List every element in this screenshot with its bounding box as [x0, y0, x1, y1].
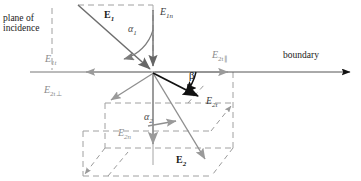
vector-diagram-figure: plane of incidence boundary E1 E1n E1t α…: [0, 0, 361, 181]
label-alpha1-subscript: 1: [133, 29, 137, 37]
label-alpha2: α2: [144, 112, 153, 125]
label-E1n: E1n: [160, 7, 173, 20]
label-E1n-subscript: 1n: [166, 12, 173, 20]
plane-of-incidence-line1: plane of: [3, 13, 34, 23]
label-E2t-parallel-subscript: 2t∥: [218, 55, 227, 63]
label-E2t-perpendicular: E2t⊥: [44, 85, 62, 98]
label-E1t-subscript: 1t: [51, 59, 56, 67]
label-alpha1: α1: [128, 24, 137, 37]
dash-depth-edge-right: [213, 148, 233, 174]
dash-depth-edge-top-right: [211, 106, 231, 131]
label-E1: E1: [104, 10, 114, 23]
label-beta: β: [189, 70, 194, 81]
label-E2n: E2n: [118, 128, 131, 141]
label-E1t: E1t: [45, 54, 57, 67]
label-E2t: E2t: [206, 96, 218, 109]
label-alpha2-subscript: 2: [149, 117, 153, 125]
label-E2: E2: [176, 155, 186, 168]
label-E1-subscript: 1: [111, 15, 115, 23]
label-E2-subscript: 2: [183, 160, 187, 168]
vector-E2t-perpendicular: [111, 74, 152, 100]
boundary-label: boundary: [283, 51, 319, 61]
label-E1-symbol: E: [104, 9, 111, 20]
label-E2n-subscript: 2n: [124, 133, 131, 141]
dash-depth-edge-left: [85, 148, 105, 174]
dash-depth-edge-lower-inner: [108, 152, 128, 176]
field-vectors: [78, 5, 228, 159]
plane-of-incidence-line2: incidence: [3, 23, 39, 33]
label-E2-symbol: E: [176, 154, 183, 165]
plane-of-incidence-label: plane of incidence: [3, 14, 39, 34]
label-E2t-parallel: E2t∥: [212, 50, 228, 63]
construction-dashed-lines: [52, 5, 233, 176]
label-E2t-subscript: 2t: [212, 101, 217, 109]
label-E2t-perp-subscript: 2t⊥: [50, 90, 61, 98]
